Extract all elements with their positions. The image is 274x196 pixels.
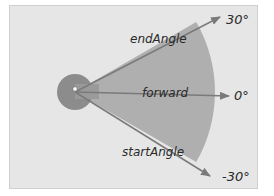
forward-label: forward	[142, 86, 189, 100]
start-angle-label: startAngle	[122, 145, 184, 159]
angle-neg30-label: -30°	[222, 169, 250, 184]
end-angle-label: endAngle	[130, 32, 187, 46]
angle-diagram: endAngle forward startAngle 30° 0° -30°	[0, 0, 274, 196]
origin-point	[73, 87, 77, 91]
angle-30-label: 30°	[226, 12, 249, 27]
angle-0-label: 0°	[234, 88, 249, 103]
